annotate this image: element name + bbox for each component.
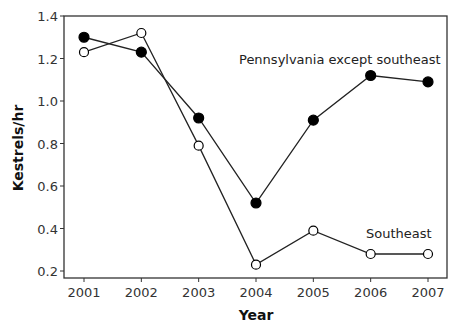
open-circle-marker-icon bbox=[80, 48, 89, 57]
series-label-southeast: Southeast bbox=[366, 226, 432, 241]
open-circle-marker-icon bbox=[309, 226, 318, 235]
x-tick-label: 2002 bbox=[125, 285, 158, 300]
open-circle-marker-icon bbox=[252, 260, 261, 269]
y-axis-title: Kestrels/hr bbox=[10, 105, 26, 192]
filled-circle-marker-icon bbox=[136, 47, 146, 57]
y-tick-label: 0.4 bbox=[37, 222, 58, 237]
filled-circle-marker-icon bbox=[194, 113, 204, 123]
filled-circle-marker-icon bbox=[366, 71, 376, 81]
x-axis: 2001200220032004200520062007 bbox=[67, 278, 444, 300]
x-tick-label: 2005 bbox=[297, 285, 330, 300]
filled-circle-marker-icon bbox=[251, 198, 261, 208]
y-tick-label: 0.6 bbox=[37, 179, 58, 194]
y-tick-label: 0.8 bbox=[37, 137, 58, 152]
x-tick-label: 2004 bbox=[239, 285, 272, 300]
open-circle-marker-icon bbox=[424, 250, 433, 259]
series-label-pennsylvania-except-southeast: Pennsylvania except southeast bbox=[239, 52, 441, 67]
line-chart: American Kestrel 0.20.40.60.81.01.21.4 2… bbox=[0, 0, 460, 330]
filled-circle-marker-icon bbox=[308, 115, 318, 125]
x-tick-label: 2003 bbox=[182, 285, 215, 300]
x-tick-label: 2006 bbox=[354, 285, 387, 300]
x-axis-title: Year bbox=[238, 307, 274, 323]
open-circle-marker-icon bbox=[194, 141, 203, 150]
filled-circle-marker-icon bbox=[423, 77, 433, 87]
y-axis: 0.20.40.60.81.01.21.4 bbox=[37, 9, 64, 279]
x-tick-label: 2001 bbox=[67, 285, 100, 300]
filled-circle-marker-icon bbox=[79, 32, 89, 42]
y-tick-label: 1.0 bbox=[37, 94, 58, 109]
y-tick-label: 1.4 bbox=[37, 9, 58, 24]
open-circle-marker-icon bbox=[366, 250, 375, 259]
x-tick-label: 2007 bbox=[411, 285, 444, 300]
y-tick-label: 0.2 bbox=[37, 264, 58, 279]
open-circle-marker-icon bbox=[137, 29, 146, 38]
y-tick-label: 1.2 bbox=[37, 52, 58, 67]
